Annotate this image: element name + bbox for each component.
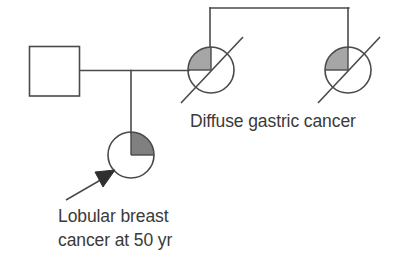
label-lobular-breast-cancer-line2: cancer at 50 yr	[58, 230, 173, 250]
individual-mother[interactable]	[181, 37, 243, 103]
label-diffuse-gastric-cancer: Diffuse gastric cancer	[190, 111, 356, 131]
male-square-symbol	[30, 47, 80, 97]
proband-arrow-tail	[66, 178, 104, 200]
pedigree-diagram: Diffuse gastric cancer Lobular breast ca…	[0, 0, 401, 263]
individual-daughter-proband[interactable]	[108, 132, 154, 178]
individual-father[interactable]	[30, 47, 80, 97]
proband-arrow	[66, 170, 115, 200]
pedigree-canvas: Diffuse gastric cancer Lobular breast ca…	[0, 0, 401, 263]
proband-arrow-head	[95, 170, 115, 187]
label-lobular-breast-cancer-line1: Lobular breast	[58, 206, 169, 226]
individual-aunt[interactable]	[318, 37, 380, 103]
